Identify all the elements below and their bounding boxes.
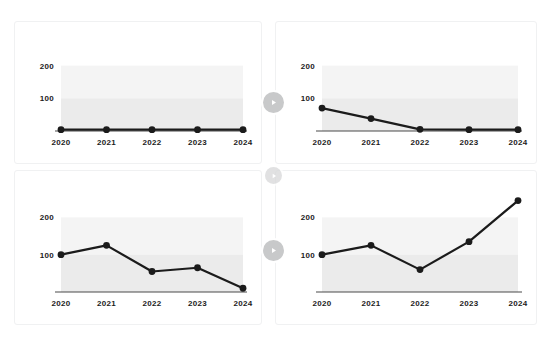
- x-axis-tick-label: 2021: [362, 138, 381, 147]
- x-axis-tick-label: 2022: [411, 299, 430, 308]
- x-axis-tick-label: 2024: [509, 138, 528, 147]
- play-icon: [269, 98, 278, 107]
- x-axis-tick-label: 2024: [509, 299, 528, 308]
- data-point-marker: [240, 126, 247, 133]
- chart-top-left: 10020020202021202220232024: [15, 22, 261, 163]
- data-point-marker: [319, 251, 326, 258]
- chart-bottom-left: 10020020202021202220232024: [15, 171, 261, 324]
- x-axis-tick-label: 2024: [234, 299, 253, 308]
- page-root: 10020020202021202220232024 1002002020202…: [0, 0, 551, 338]
- data-point-marker: [368, 115, 375, 122]
- y-axis-tick-label: 100: [40, 251, 54, 260]
- x-axis-tick-label: 2022: [411, 138, 430, 147]
- x-axis-tick-label: 2021: [362, 299, 381, 308]
- play-toggle-row-2[interactable]: [265, 167, 282, 184]
- data-point-marker: [194, 264, 201, 271]
- data-point-marker: [103, 126, 110, 133]
- data-point-marker: [466, 238, 473, 245]
- y-axis-tick-label: 200: [40, 62, 54, 71]
- x-axis-tick-label: 2020: [313, 138, 332, 147]
- data-point-marker: [515, 197, 522, 204]
- chart-bottom-right: 10020020202021202220232024: [276, 171, 536, 324]
- y-axis-tick-label: 200: [301, 62, 315, 71]
- x-axis-tick-label: 2023: [188, 299, 207, 308]
- chart-card-bottom-right: 10020020202021202220232024: [275, 170, 537, 325]
- x-axis-tick-label: 2022: [143, 299, 162, 308]
- data-point-marker: [240, 285, 247, 292]
- data-point-marker: [515, 126, 522, 133]
- x-axis-tick-label: 2023: [188, 138, 207, 147]
- play-toggle-row-3[interactable]: [263, 240, 284, 261]
- data-point-marker: [466, 126, 473, 133]
- chart-card-top-left: 10020020202021202220232024: [14, 21, 262, 164]
- x-axis-tick-label: 2021: [97, 299, 116, 308]
- chart-card-bottom-left: 10020020202021202220232024: [14, 170, 262, 325]
- x-axis-tick-label: 2020: [52, 299, 71, 308]
- y-axis-tick-label: 100: [301, 94, 315, 103]
- data-point-marker: [417, 266, 424, 273]
- x-axis-tick-label: 2021: [97, 138, 116, 147]
- x-axis-tick-label: 2023: [460, 138, 479, 147]
- y-axis-tick-label: 200: [40, 213, 54, 222]
- y-axis-tick-label: 100: [301, 251, 315, 260]
- x-axis-tick-label: 2020: [313, 299, 332, 308]
- clipped-header-strip: [0, 0, 551, 9]
- x-axis-tick-label: 2023: [460, 299, 479, 308]
- data-point-marker: [58, 126, 65, 133]
- y-axis-tick-label: 200: [301, 213, 315, 222]
- data-point-marker: [149, 268, 156, 275]
- play-toggle-row-1[interactable]: [263, 92, 284, 113]
- play-icon: [270, 172, 278, 180]
- chart-grid: 10020020202021202220232024 1002002020202…: [0, 9, 551, 338]
- x-axis-tick-label: 2022: [143, 138, 162, 147]
- data-point-marker: [58, 251, 65, 258]
- data-point-marker: [103, 242, 110, 249]
- play-icon: [269, 246, 278, 255]
- x-axis-tick-label: 2024: [234, 138, 253, 147]
- x-axis-tick-label: 2020: [52, 138, 71, 147]
- y-axis-tick-label: 100: [40, 94, 54, 103]
- data-point-marker: [368, 242, 375, 249]
- chart-card-top-right: 10020020202021202220232024: [275, 21, 537, 164]
- chart-top-right: 10020020202021202220232024: [276, 22, 536, 163]
- data-point-marker: [149, 126, 156, 133]
- data-point-marker: [417, 126, 424, 133]
- data-point-marker: [319, 105, 326, 112]
- data-point-marker: [194, 126, 201, 133]
